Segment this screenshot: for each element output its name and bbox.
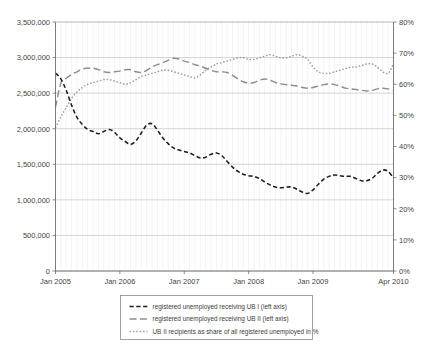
left-axis-tick-label: 500,000 [23,231,50,240]
right-axis-tick-label: 40% [399,142,414,151]
x-axis-tick-label: Jan 2008 [233,277,264,286]
right-axis-tick-label: 30% [399,173,414,182]
x-axis-tick-label: Jan 2006 [104,277,135,286]
right-axis-tick-label: 50% [399,111,414,120]
right-axis-tick-label: 0% [399,267,410,276]
right-axis-ticks [394,22,397,271]
legend-label: registered unemployed receiving UB I (le… [153,303,287,311]
right-axis-tick-label: 60% [399,80,414,89]
legend-label: registered unemployed receiving UB II (l… [153,315,289,323]
left-axis-tick-label: 3,000,000 [17,53,50,62]
left-axis-tick-label: 1,500,000 [17,160,50,169]
right-axis-tick-label: 70% [399,49,414,58]
legend-item: UB II recipients as share of all registe… [130,328,319,336]
line-chart: 0500,0001,000,0001,500,0002,000,0002,500… [0,0,433,350]
x-axis-ticks [56,271,394,274]
x-axis-tick-label: Jan 2007 [169,277,200,286]
legend-item: registered unemployed receiving UB I (le… [130,303,287,311]
x-axis-tick-label: Apr 2010 [378,277,408,286]
left-axis-tick-label: 0 [46,267,50,276]
legend-label: UB II recipients as share of all registe… [153,328,319,336]
left-axis-tick-label: 2,500,000 [17,89,50,98]
right-axis-tick-label: 10% [399,236,414,245]
left-axis-tick-label: 1,000,000 [17,196,50,205]
right-axis-tick-label: 20% [399,205,414,214]
left-axis-tick-label: 2,000,000 [17,125,50,134]
x-axis-tick-label: Jan 2005 [40,277,71,286]
chart-container: 0500,0001,000,0001,500,0002,000,0002,500… [0,0,433,350]
right-axis-tick-label: 80% [399,18,414,27]
legend-item: registered unemployed receiving UB II (l… [130,315,289,323]
plot-background [56,22,394,271]
left-axis-tick-label: 3,500,000 [17,18,50,27]
x-axis-tick-label: Jan 2009 [298,277,329,286]
